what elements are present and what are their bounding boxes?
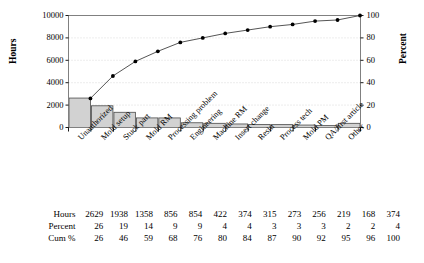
- category-label: Resin: [257, 122, 276, 141]
- table-row: Percent2619149944333224: [28, 220, 400, 232]
- table-cell: 374: [375, 208, 400, 220]
- table-cell: 26: [78, 232, 103, 244]
- table-row-label: Hours: [28, 208, 78, 220]
- table-cell: 9: [178, 220, 203, 232]
- table-cell: 856: [153, 208, 178, 220]
- table-cell: 2: [351, 220, 376, 232]
- table-row: Cum %264659687680848790929596100: [28, 232, 400, 244]
- table-cell: 4: [202, 220, 227, 232]
- table-row-label: Percent: [28, 220, 78, 232]
- table-cell: 80: [202, 232, 227, 244]
- table-row-label: Cum %: [28, 232, 78, 244]
- table-cell: 256: [301, 208, 326, 220]
- table-cell: 87: [252, 232, 277, 244]
- table-cell: 374: [227, 208, 252, 220]
- table-cell: 3: [301, 220, 326, 232]
- table-cell: 854: [178, 208, 203, 220]
- table-cell: 100: [375, 232, 400, 244]
- table-row: Hours26291938135885685442237431527325621…: [28, 208, 400, 220]
- table-cell: 4: [227, 220, 252, 232]
- table-cell: 84: [227, 232, 252, 244]
- table-cell: 59: [128, 232, 153, 244]
- table-cell: 168: [351, 208, 376, 220]
- table-cell: 315: [252, 208, 277, 220]
- table-cell: 1358: [128, 208, 153, 220]
- table-cell: 92: [301, 232, 326, 244]
- table-cell: 26: [78, 220, 103, 232]
- table-cell: 19: [103, 220, 128, 232]
- table-cell: 273: [276, 208, 301, 220]
- table-cell: 422: [202, 208, 227, 220]
- table-cell: 1938: [103, 208, 128, 220]
- pareto-chart: Hours Percent 02000400060008000100000204…: [0, 0, 424, 263]
- table-cell: 9: [153, 220, 178, 232]
- table-cell: 14: [128, 220, 153, 232]
- table-cell: 90: [276, 232, 301, 244]
- table-cell: 76: [178, 232, 203, 244]
- data-table: Hours26291938135885685442237431527325621…: [28, 208, 400, 244]
- table-cell: 68: [153, 232, 178, 244]
- table-cell: 2: [326, 220, 351, 232]
- table-cell: 46: [103, 232, 128, 244]
- category-label: Other: [347, 122, 366, 141]
- table-cell: 95: [326, 232, 351, 244]
- table-cell: 2629: [78, 208, 103, 220]
- table-cell: 219: [326, 208, 351, 220]
- table-cell: 3: [276, 220, 301, 232]
- table-cell: 96: [351, 232, 376, 244]
- table-cell: 4: [375, 220, 400, 232]
- table-cell: 3: [252, 220, 277, 232]
